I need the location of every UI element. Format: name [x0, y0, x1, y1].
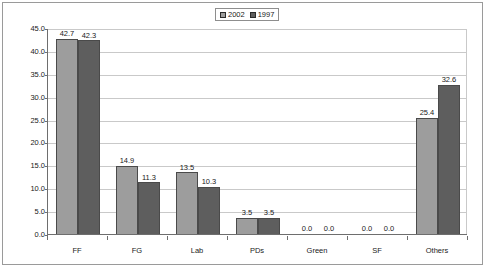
bar-lab-1997[interactable]: 10.3	[198, 187, 220, 234]
y-axis-tick-label: 25.0	[7, 117, 45, 125]
bar-value-label: 13.5	[180, 164, 195, 172]
bar-pds-1997[interactable]: 3.5	[258, 218, 280, 234]
x-axis-tick-mark	[347, 236, 348, 240]
bar-fg-1997[interactable]: 11.3	[138, 182, 160, 234]
bar-lab-2002[interactable]: 13.5	[176, 172, 198, 234]
x-axis-tick-mark	[47, 236, 48, 240]
bar-value-label: 11.3	[142, 174, 156, 182]
y-axis-tick-label: 5.0	[7, 208, 45, 216]
y-axis-tick-label: 40.0	[7, 48, 45, 56]
bar-group: 0.00.0	[288, 29, 348, 234]
x-axis-category-label: Lab	[191, 247, 204, 255]
bar-others-1997[interactable]: 32.6	[438, 85, 460, 234]
chart-legend: 2002 1997	[215, 8, 279, 21]
bar-ff-2002[interactable]: 42.7	[56, 39, 78, 234]
chart-frame: 2002 1997 45.040.035.030.025.020.015.010…	[2, 2, 483, 265]
y-axis-tick-label: 10.0	[7, 185, 45, 193]
bar-value-label: 14.9	[120, 157, 135, 165]
bar-value-label: 3.5	[242, 209, 252, 217]
bar-value-label: 42.7	[60, 30, 75, 38]
legend-label-1997: 1997	[258, 11, 275, 19]
x-axis-tick-mark	[287, 236, 288, 240]
bar-group: 42.742.3	[48, 29, 108, 234]
plot-area: 42.742.314.911.313.510.33.53.50.00.00.00…	[47, 29, 467, 235]
x-axis-tick-mark	[227, 236, 228, 240]
y-axis-tick-label: 20.0	[7, 140, 45, 148]
bar-value-label: 0.0	[302, 225, 312, 233]
bar-pds-2002[interactable]: 3.5	[236, 218, 258, 234]
bar-value-label: 32.6	[442, 76, 457, 84]
y-axis-tick-label: 35.0	[7, 71, 45, 79]
x-axis-category-label: Others	[426, 247, 449, 255]
bar-group: 25.432.6	[408, 29, 468, 234]
bar-value-label: 0.0	[362, 225, 372, 233]
bar-value-label: 0.0	[384, 225, 394, 233]
legend-entry-2002: 2002	[220, 11, 245, 19]
x-axis: FFFGLabPDsGreenSFOthers	[47, 236, 467, 264]
legend-entry-1997: 1997	[250, 11, 275, 19]
x-axis-tick-mark	[407, 236, 408, 240]
x-axis-tick-mark	[167, 236, 168, 240]
x-axis-category-label: Green	[307, 247, 328, 255]
y-axis: 45.040.035.030.025.020.015.010.05.00.0	[3, 29, 45, 236]
x-axis-tick-mark	[107, 236, 108, 240]
y-axis-tick-label: 45.0	[7, 25, 45, 33]
legend-label-2002: 2002	[228, 11, 245, 19]
bar-group: 13.510.3	[168, 29, 228, 234]
x-axis-category-label: SF	[372, 247, 382, 255]
bar-value-label: 42.3	[82, 32, 97, 40]
bar-value-label: 0.0	[324, 225, 334, 233]
bar-value-label: 10.3	[202, 178, 217, 186]
bar-fg-2002[interactable]: 14.9	[116, 166, 138, 234]
bar-group: 3.53.5	[228, 29, 288, 234]
bar-group: 0.00.0	[348, 29, 408, 234]
x-axis-category-label: PDs	[250, 247, 264, 255]
bar-value-label: 3.5	[264, 209, 274, 217]
bar-others-2002[interactable]: 25.4	[416, 118, 438, 234]
bar-ff-1997[interactable]: 42.3	[78, 40, 100, 234]
y-axis-tick-label: 0.0	[7, 231, 45, 239]
y-axis-tick-label: 30.0	[7, 94, 45, 102]
bar-value-label: 25.4	[420, 109, 435, 117]
bar-group: 14.911.3	[108, 29, 168, 234]
y-axis-tick-label: 15.0	[7, 163, 45, 171]
x-axis-category-label: FF	[72, 247, 81, 255]
legend-swatch-2002	[220, 12, 226, 18]
legend-swatch-1997	[250, 12, 256, 18]
x-axis-category-label: FG	[132, 247, 142, 255]
x-axis-tick-mark	[467, 236, 468, 240]
